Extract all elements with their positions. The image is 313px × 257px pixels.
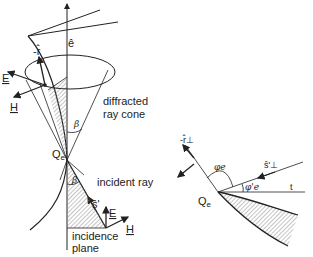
diffracted-label-line2: ray cone (103, 108, 145, 120)
wedge-top-surface-2 (28, 22, 118, 36)
incident-ray-label: incident ray (97, 176, 154, 188)
diffracted-label-line1: diffracted (103, 95, 148, 107)
wedge-top-surface (28, 10, 100, 36)
right-panel: t ŝ'⊥ -r̂⊥ φe φ'e Qe (178, 134, 305, 246)
wedge-hatch-right (218, 192, 298, 246)
beta-bottom-label: β (71, 175, 77, 185)
neg-r-perp-label: -r̂⊥ (180, 134, 194, 145)
H-top-label: H (10, 101, 18, 113)
diffraction-diagram: -r̂ E H ê β diffracted ray cone Qe β inc… (0, 0, 313, 257)
left-panel: -r̂ E H ê β diffracted ray cone Qe β inc… (2, 4, 154, 254)
t-axis-label: t (290, 182, 293, 192)
Qe-label-right: Qe (198, 195, 212, 209)
phi-e-prime-label: φ'e (245, 182, 259, 192)
s-hat-label: ŝ' (92, 198, 100, 210)
H-bottom-label: H (126, 223, 134, 235)
E-bottom-label: E (109, 207, 116, 219)
phi-e-label: φe (214, 162, 226, 172)
beta-top-label: β (73, 119, 79, 129)
E-top-label: E (2, 72, 9, 84)
incidence-plane-label-line2: plane (72, 242, 99, 254)
E-vector-top (8, 72, 45, 85)
incidence-plane-label-line1: incidence (72, 230, 118, 242)
neg-r-hat-label: -r̂ (33, 44, 41, 57)
s-perp-label: ŝ'⊥ (264, 160, 278, 170)
edge-vector-label: ê (68, 37, 74, 49)
